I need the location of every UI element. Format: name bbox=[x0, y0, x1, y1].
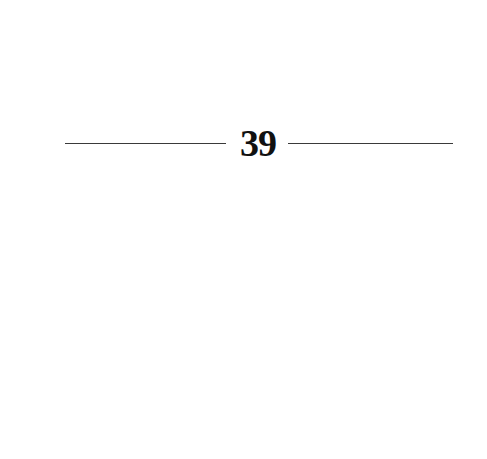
chapter-number: 39 bbox=[229, 124, 287, 162]
right-horizontal-rule bbox=[288, 143, 453, 144]
left-horizontal-rule bbox=[65, 143, 226, 144]
document-page: 39 bbox=[0, 0, 487, 459]
